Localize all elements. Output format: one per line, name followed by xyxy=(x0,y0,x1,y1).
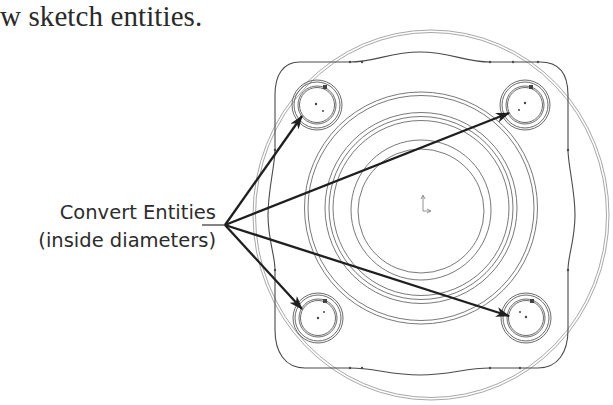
concentric-rings xyxy=(305,92,538,324)
outer-circle xyxy=(253,30,609,400)
flange-outline-vertices xyxy=(274,61,569,369)
cad-drawing xyxy=(0,0,613,405)
hole-top-right xyxy=(500,80,550,130)
flange-outline xyxy=(268,52,575,375)
hole-bottom-left xyxy=(293,293,343,343)
arrow-to-top-right-hole xyxy=(225,113,509,225)
hole-top-left xyxy=(292,80,342,130)
hole-bottom-right xyxy=(501,293,551,343)
origin-marker-icon xyxy=(421,195,431,213)
